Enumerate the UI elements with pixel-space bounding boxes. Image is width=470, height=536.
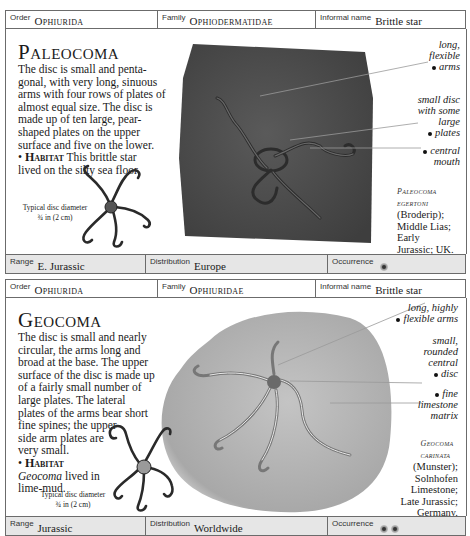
species-info: Geocoma carinata (Munster); Solnhofen Li… — [401, 438, 458, 519]
annotation-line: long, highly — [396, 302, 458, 313]
genus-title: Geocoma — [18, 310, 102, 331]
annotation-disc: small disc with some large plates — [418, 94, 460, 138]
species-line: Late Jurassic; — [401, 496, 458, 508]
annotation-line: flexible — [429, 50, 460, 61]
species-name: carinata — [401, 450, 458, 462]
informal-name-cell: Informal name Brittle star — [316, 11, 465, 28]
annotation-arms: long, highly flexible arms — [396, 302, 458, 324]
occurrence-icon — [380, 263, 388, 271]
species-name: egertoni — [397, 198, 454, 210]
description-line: plates of the arms bear short — [18, 407, 155, 420]
habitat-genus: Geocoma — [18, 470, 62, 482]
annotation-line: mouth — [423, 156, 460, 167]
family-value: Ophiuridae — [190, 284, 244, 296]
distribution-value: Worldwide — [194, 522, 243, 534]
pointer-dot-icon — [428, 132, 432, 136]
range-bar: Range E. Jurassic Distribution Europe Oc… — [5, 254, 466, 274]
caption-line: Typical disc diameter — [28, 490, 118, 500]
description-line: broad at the base. The upper — [18, 356, 155, 369]
species-line: (Munster); — [401, 461, 458, 473]
classification-bar: Order Ophiurida Family Ophiodermatidae I… — [5, 10, 466, 29]
description-line: shaped plates on the upper — [18, 126, 166, 139]
family-label: Family — [162, 13, 186, 22]
annotation-line: small, — [423, 335, 458, 346]
description-line: gonal, with very long, sinuous — [18, 76, 166, 89]
occurrence-cell: Occurrence — [328, 255, 465, 273]
species-info: Paleocoma egertoni (Broderip); Middle Li… — [397, 186, 454, 255]
species-name: Geocoma — [401, 438, 458, 450]
description-line: of a fairly small number of — [18, 381, 155, 394]
order-label: Order — [10, 13, 30, 22]
distribution-label: Distribution — [150, 257, 190, 266]
annotation-line: disc — [441, 368, 458, 379]
description-line: The disc is small and penta- — [18, 63, 166, 76]
species-line: Solnhofen — [401, 473, 458, 485]
distribution-label: Distribution — [150, 519, 190, 528]
caption-line: ¾ in (2 cm) — [10, 213, 100, 223]
caption-line: Typical disc diameter — [10, 203, 100, 213]
species-line: (Broderip); — [397, 209, 454, 221]
annotation-line: fine — [442, 388, 458, 399]
occurrence-icon — [391, 525, 399, 533]
annotation-line: rounded — [423, 346, 458, 357]
habitat-text: lived in — [65, 470, 100, 482]
annotation-line: large — [418, 116, 460, 127]
description-line: The disc is small and nearly — [18, 331, 155, 344]
informal-name-label: Informal name — [320, 13, 371, 22]
distribution-cell: Distribution Worldwide — [146, 517, 328, 535]
range-label: Range — [10, 519, 34, 528]
annotation-mouth: central mouth — [423, 145, 460, 167]
pointer-dot-icon — [434, 373, 438, 377]
size-caption: Typical disc diameter ¾ in (2 cm) — [28, 490, 118, 509]
annotation-line: flexible arms — [403, 313, 458, 324]
order-value: Ophiurida — [34, 15, 83, 27]
description-line: circular, the arms long and — [18, 344, 155, 357]
annotation-line: plates — [435, 127, 460, 138]
range-value: E. Jurassic — [38, 260, 85, 272]
pointer-dot-icon — [423, 150, 427, 154]
family-value: Ophiodermatidae — [190, 15, 273, 27]
bullet-icon: • — [18, 457, 22, 469]
habitat-label: Habitat — [25, 150, 64, 164]
order-cell: Order Ophiurida — [6, 11, 158, 28]
annotation-line: small disc — [418, 94, 460, 105]
size-caption: Typical disc diameter ¾ in (2 cm) — [10, 203, 100, 222]
occurrence-label: Occurrence — [332, 519, 373, 528]
annotation-line: central — [430, 145, 460, 156]
informal-name-label: Informal name — [320, 282, 371, 291]
range-cell: Range E. Jurassic — [6, 255, 146, 273]
caption-line: ¾ in (2 cm) — [28, 500, 118, 510]
description-line: large plates. The lateral — [18, 394, 155, 407]
description-line: made up of ten large, pear- — [18, 113, 166, 126]
annotation-matrix: fine limestone matrix — [418, 388, 458, 421]
habitat-label: Habitat — [25, 456, 64, 470]
order-cell: Order Ophiurida — [6, 280, 158, 297]
bullet-icon: • — [18, 151, 22, 163]
occurrence-label: Occurrence — [332, 257, 373, 266]
description-line: almost equal size. The disc is — [18, 101, 166, 114]
genus-title: Paleocoma — [18, 42, 119, 63]
pointer-dot-icon — [435, 393, 439, 397]
annotation-leaders — [250, 40, 440, 190]
order-value: Ophiurida — [34, 284, 83, 296]
range-bar: Range Jurassic Distribution Worldwide Oc… — [5, 516, 466, 536]
annotation-arms: long, flexible arms — [429, 39, 460, 72]
annotation-line: long, — [429, 39, 460, 50]
range-value: Jurassic — [38, 522, 73, 534]
distribution-cell: Distribution Europe — [146, 255, 328, 273]
species-line: Early — [397, 232, 454, 244]
species-line: Limestone; — [401, 484, 458, 496]
annotation-line: limestone — [418, 399, 458, 410]
description: The disc is small and penta- gonal, with… — [18, 63, 166, 176]
family-label: Family — [162, 282, 186, 291]
order-label: Order — [10, 282, 30, 291]
range-cell: Range Jurassic — [6, 517, 146, 535]
pointer-dot-icon — [396, 318, 400, 322]
family-cell: Family Ophiodermatidae — [158, 11, 316, 28]
pointer-dot-icon — [432, 66, 436, 70]
occurrence-icon — [380, 525, 388, 533]
distribution-value: Europe — [194, 260, 226, 272]
informal-name-value: Brittle star — [375, 15, 422, 27]
range-label: Range — [10, 257, 34, 266]
annotation-line: with some — [418, 105, 460, 116]
